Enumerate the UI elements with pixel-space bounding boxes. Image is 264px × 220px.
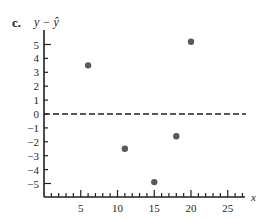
y-tick-label: 2 (34, 80, 40, 92)
data-point (151, 179, 157, 185)
x-tick-label: 5 (78, 202, 84, 214)
y-tick-label: 0 (34, 108, 40, 120)
y-tick-label: 3 (34, 66, 40, 78)
data-point (85, 62, 91, 68)
y-tick-label: 4 (34, 52, 40, 64)
y-tick-label: −5 (27, 178, 39, 190)
x-tick-label: 10 (112, 202, 124, 214)
y-tick-label: −1 (27, 122, 39, 134)
y-tick-label: −2 (27, 136, 39, 148)
x-tick-label: 20 (186, 202, 198, 214)
x-tick-label: 15 (149, 202, 161, 214)
y-tick-label: −4 (27, 164, 39, 176)
x-axis-title: x (250, 191, 256, 203)
y-tick-label: −3 (27, 150, 39, 162)
y-tick-label: 1 (34, 94, 40, 106)
data-point (122, 146, 128, 152)
residual-plot: 543210−1−2−3−4−5510152025x (0, 0, 264, 220)
data-point (188, 39, 194, 45)
x-tick-label: 25 (222, 202, 234, 214)
data-point (173, 133, 179, 139)
y-tick-label: 5 (34, 39, 40, 51)
